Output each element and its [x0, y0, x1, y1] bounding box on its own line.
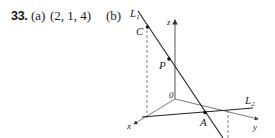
3d-lines-figure: L1 C z P 0 L2 A x y	[0, 0, 275, 138]
line-l1	[138, 11, 223, 138]
label-a: A	[199, 116, 207, 128]
label-l2: L2	[244, 94, 255, 108]
x-axis	[134, 99, 175, 124]
label-c: C	[136, 25, 144, 37]
point-c	[146, 25, 150, 29]
point-p	[167, 57, 171, 61]
point-a	[203, 111, 207, 115]
label-x: x	[126, 121, 131, 131]
label-origin: 0	[169, 90, 174, 100]
label-z: z	[166, 17, 171, 27]
label-l1: L1	[129, 7, 140, 21]
label-p: P	[158, 59, 166, 71]
label-y: y	[252, 122, 257, 132]
